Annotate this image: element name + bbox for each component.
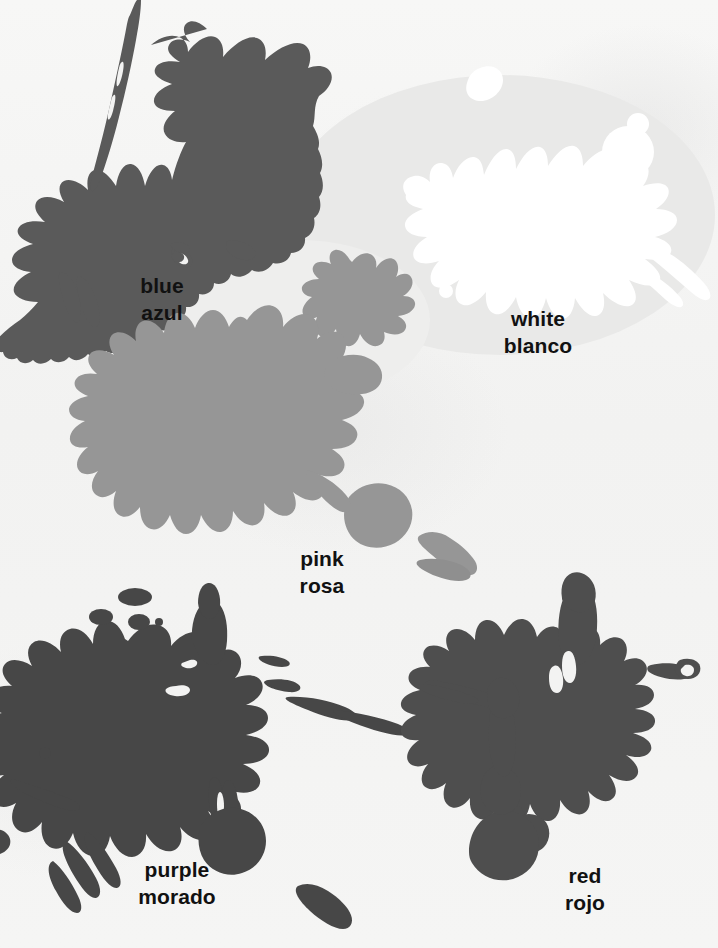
label-white: white blanco [504, 305, 572, 359]
label-blue-es: azul [140, 299, 184, 326]
label-blue: blue azul [140, 272, 184, 326]
label-red: red rojo [565, 862, 605, 916]
label-red-es: rojo [565, 889, 605, 916]
label-purple-es: morado [138, 883, 216, 910]
label-purple: purple morado [138, 856, 216, 910]
splat-red [401, 559, 700, 881]
label-pink-en: pink [300, 545, 345, 572]
label-blue-en: blue [140, 272, 184, 299]
label-red-en: red [565, 862, 605, 889]
color-splat-poster: blue azul white blanco pink rosa purple … [0, 0, 718, 948]
label-white-en: white [504, 305, 572, 332]
label-pink: pink rosa [300, 545, 345, 599]
label-white-es: blanco [504, 332, 572, 359]
label-purple-en: purple [138, 856, 216, 883]
label-pink-es: rosa [300, 572, 345, 599]
splat-layer [0, 0, 718, 948]
